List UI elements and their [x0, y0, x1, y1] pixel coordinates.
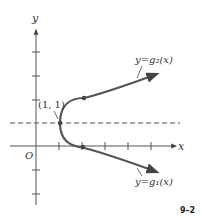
vertex-point — [58, 121, 62, 125]
lower-pointer — [137, 168, 142, 176]
diagram-canvas: y x O (1, 1) y=g₂(x) y=g₁(x) 9–2 — [0, 0, 202, 218]
upper-pointer — [137, 66, 142, 78]
upper-branch-curve — [60, 74, 157, 123]
point-pointer — [54, 111, 58, 119]
y-axis-label: y — [31, 12, 39, 25]
origin-label: O — [25, 150, 33, 161]
point-label: (1, 1) — [38, 99, 65, 110]
lower-branch-curve — [60, 123, 157, 172]
upper-curve-label: y=g₂(x) — [134, 54, 173, 65]
figure-number: 9–2 — [180, 206, 195, 215]
x-axis-label: x — [178, 140, 185, 153]
upper-point — [82, 96, 86, 100]
lower-point — [81, 145, 85, 149]
lower-curve-label: y=g₁(x) — [134, 176, 173, 187]
